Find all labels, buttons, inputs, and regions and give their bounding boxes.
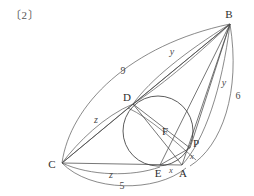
point-label-D: D [123,92,131,103]
arc-label-z-bottom: z [109,170,113,180]
segment-C-D [62,104,133,163]
arc-label-5: 5 [120,181,125,191]
segment-C-A [62,163,182,165]
arc-label-x-right: x [190,152,194,161]
geometry-figure: 〔2〕 BCADEFP 956yyzzxx [0,0,254,196]
arc-label-z-left: z [94,115,98,125]
arc-label-x-bottom: x [169,166,173,175]
segment-D-A [133,104,182,165]
arc-label-6: 6 [236,91,241,101]
point-label-A: A [179,168,187,179]
point-label-F: F [162,126,168,137]
point-label-B: B [225,9,232,20]
arcs-group [62,24,233,186]
point-label-E: E [155,168,162,179]
point-label-C: C [48,159,55,170]
segments-group [62,24,230,165]
segment-B-D [133,24,230,104]
arc-label-y-right: y [222,78,226,88]
point-label-P: P [193,138,199,149]
arc-label-y-top: y [170,47,174,57]
arc-label-9: 9 [121,66,126,76]
problem-number-tag: 〔2〕 [10,10,39,21]
incircle [123,96,193,166]
